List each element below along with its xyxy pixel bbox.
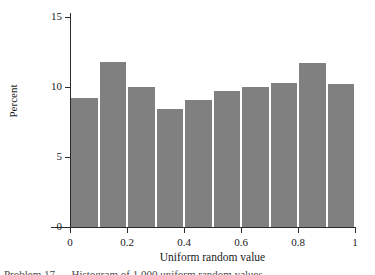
histogram-bar: [214, 91, 241, 227]
plot-area: [70, 17, 355, 227]
x-axis-tick-label: 1: [335, 236, 375, 248]
x-axis-tick: [127, 228, 128, 233]
x-axis-tick-label: 0.2: [107, 236, 147, 248]
y-axis-tick-label: 15: [30, 11, 62, 22]
x-axis-tick-label: 0.8: [278, 236, 318, 248]
histogram-bar: [328, 84, 355, 227]
histogram-bar: [271, 83, 298, 227]
y-axis-spine: [70, 13, 71, 228]
histogram-bar: [128, 87, 155, 227]
x-axis-tick: [184, 228, 185, 233]
x-axis-tick: [355, 228, 356, 233]
x-axis-tick-label: 0.4: [164, 236, 204, 248]
y-axis-tick-label: 5: [30, 151, 62, 162]
y-axis-tick: [65, 17, 70, 18]
x-axis-tick-label: 0.6: [221, 236, 261, 248]
figure-caption: Problem 17 — Histogram of 1,000 uniform …: [4, 268, 375, 275]
histogram-bar: [100, 62, 127, 227]
histogram-bar: [185, 100, 212, 227]
y-axis-tick-label: 10: [30, 81, 62, 92]
histogram-bar: [242, 87, 269, 227]
histogram-figure: 051015 00.20.40.60.81 Percent Uniform ra…: [0, 0, 375, 275]
x-axis-tick-label: 0: [50, 236, 90, 248]
histogram-bar: [157, 109, 184, 227]
bar-series: [70, 17, 355, 227]
x-axis-tick: [298, 228, 299, 233]
histogram-bar: [71, 98, 98, 227]
x-axis-spine: [51, 227, 356, 228]
x-axis-title: Uniform random value: [70, 251, 355, 264]
x-axis-tick: [241, 228, 242, 233]
y-axis-title: Percent: [7, 51, 19, 151]
x-axis-tick: [70, 228, 71, 233]
y-axis-tick-label: 0: [30, 221, 62, 232]
y-axis-tick: [65, 157, 70, 158]
histogram-bar: [299, 63, 326, 227]
y-axis-tick: [65, 87, 70, 88]
